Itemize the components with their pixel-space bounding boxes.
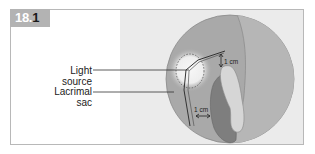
vertical-measure-label: 1 cm	[224, 58, 238, 65]
lacrimal-sac-diagram: 1 cm 1 cm	[0, 0, 315, 154]
horizontal-measure-label: 1 cm	[194, 106, 208, 113]
